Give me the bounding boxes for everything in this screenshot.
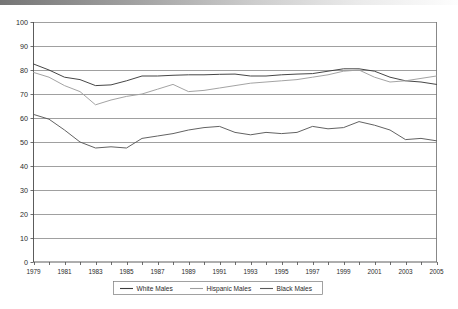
scan-artifact-band <box>0 0 458 5</box>
legend-label-white-males: White Males <box>137 285 174 292</box>
x-tick-label-1983: 1983 <box>88 268 103 275</box>
y-tick-label-30: 30 <box>20 186 28 195</box>
y-tick-label-50: 50 <box>20 138 28 147</box>
y-tick-label-100: 100 <box>16 18 28 27</box>
x-tick-label-1989: 1989 <box>181 268 196 275</box>
y-tick-label-80: 80 <box>20 66 28 75</box>
gridlines-group <box>34 23 437 239</box>
y-tick-label-60: 60 <box>20 114 28 123</box>
x-tick-label-2001: 2001 <box>367 268 382 275</box>
legend-label-black-males: Black Males <box>277 285 313 292</box>
x-tick-label-2003: 2003 <box>398 268 413 275</box>
x-tick-label-1993: 1993 <box>243 268 258 275</box>
y-tick-label-20: 20 <box>20 210 28 219</box>
y-tick-label-90: 90 <box>20 42 28 51</box>
x-tick-label-1981: 1981 <box>57 268 72 275</box>
legend-label-hispanic-males: Hispanic Males <box>207 285 252 293</box>
series-line-white-males <box>34 64 437 86</box>
y-tick-label-0: 0 <box>24 258 28 267</box>
line-chart: 0102030405060708090100 19791981198319851… <box>0 0 458 309</box>
x-tick-label-1995: 1995 <box>274 268 289 275</box>
y-axis-labels-group: 0102030405060708090100 <box>16 18 28 267</box>
series-line-black-males <box>34 114 437 148</box>
y-tick-label-70: 70 <box>20 90 28 99</box>
data-series-group <box>34 64 437 148</box>
x-tick-label-1999: 1999 <box>336 268 351 275</box>
legend-items-group: White MalesHispanic MalesBlack Males <box>120 285 313 293</box>
chart-legend: White MalesHispanic MalesBlack Males <box>114 282 323 295</box>
x-axis-labels-group: 1979198119831985198719891991199319951997… <box>26 268 444 275</box>
x-tick-label-1985: 1985 <box>119 268 134 275</box>
x-axis-ticks-group <box>35 262 438 265</box>
y-tick-label-40: 40 <box>20 162 28 171</box>
series-line-hispanic-males <box>34 70 437 105</box>
y-tick-label-10: 10 <box>20 234 28 243</box>
chart-container: 0102030405060708090100 19791981198319851… <box>0 0 458 309</box>
x-tick-label-1997: 1997 <box>305 268 320 275</box>
x-tick-label-2005: 2005 <box>429 268 444 275</box>
x-tick-label-1987: 1987 <box>150 268 165 275</box>
x-tick-label-1979: 1979 <box>26 268 41 275</box>
x-tick-label-1991: 1991 <box>212 268 227 275</box>
